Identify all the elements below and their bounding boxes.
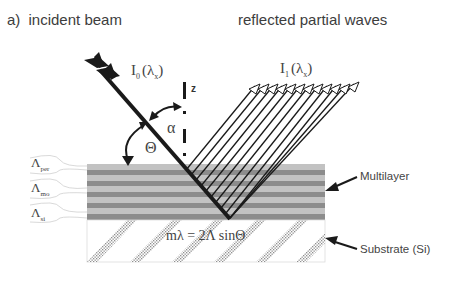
intensity-subscript: 0 (136, 72, 140, 81)
substrate-callout: Substrate (Si) (360, 243, 430, 255)
alpha-label: α (167, 119, 175, 137)
z-axis-line (183, 82, 186, 156)
angle-alpha-arc (149, 102, 182, 121)
multilayer-callout: Multilayer (360, 170, 409, 182)
theta-label: Θ (145, 139, 157, 157)
layer-label-mo: Λmo (31, 180, 49, 198)
panel-letter: a) (7, 11, 20, 28)
reflected-intensity-label: I1(λx) (280, 60, 312, 79)
incident-beam-title: incident beam (29, 11, 122, 28)
wavelength-close: ) (158, 62, 163, 78)
reflected-waves-title: reflected partial waves (238, 11, 387, 28)
incident-intensity-label: I0(λx) (131, 62, 163, 81)
layer-subscript: per (40, 165, 49, 173)
wavelength-close: ) (307, 60, 312, 76)
layer-subscript: mo (40, 190, 49, 198)
layer-label-si: Λsi (31, 205, 45, 223)
z-axis-label: z (191, 83, 196, 94)
multilayer-callout-arrow (325, 177, 357, 191)
angle-theta-arc (122, 122, 147, 166)
wavelength-arg: (λ (291, 60, 303, 76)
layer-subscript: si (40, 215, 45, 223)
layer-label-period: Λper (31, 155, 49, 173)
substrate-callout-arrow (325, 236, 357, 249)
wavelength-arg: (λ (142, 62, 154, 78)
panel-label: a) incident beam (7, 11, 122, 28)
intensity-subscript: 1 (285, 70, 289, 79)
bragg-equation: mλ = 2Λ sinΘ (166, 228, 245, 244)
